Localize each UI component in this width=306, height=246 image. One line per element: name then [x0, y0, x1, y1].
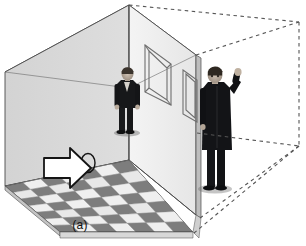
person-raising-arm — [198, 66, 242, 193]
wireframe-top-right-diagonal — [196, 22, 299, 55]
figure-caption: (a) — [0, 218, 160, 232]
figure-panel: (a) — [0, 0, 306, 246]
room-scene-illustration — [0, 0, 306, 246]
wireframe-top-back-edge — [129, 5, 299, 22]
